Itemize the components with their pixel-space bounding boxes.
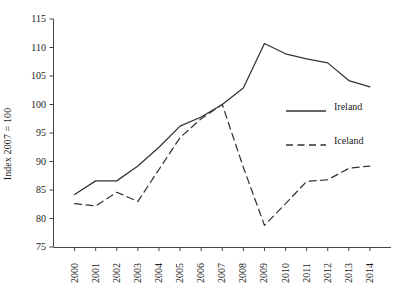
x-axis-tick-labels: 2000200120022003200420052006200720082009…: [0, 252, 417, 290]
x-tick-label: 2005: [175, 258, 185, 288]
x-tick-label: 2004: [154, 258, 164, 288]
x-tick-label: 2002: [112, 258, 122, 288]
x-tick-label: 2003: [133, 258, 143, 288]
x-tick-label: 2011: [302, 258, 312, 288]
legend-item-ireland: Ireland: [286, 100, 362, 114]
x-tick-label: 2006: [196, 258, 206, 288]
x-tick-label: 2014: [365, 258, 375, 288]
x-tick-label: 2008: [238, 258, 248, 288]
legend-item-iceland: Iceland: [286, 134, 363, 148]
legend-swatch-dashed-icon: [286, 136, 326, 146]
legend-swatch-solid-icon: [286, 102, 326, 112]
x-tick-label: 2012: [323, 258, 333, 288]
chart-legend: Ireland Iceland: [286, 100, 406, 156]
legend-label-ireland: Ireland: [334, 102, 362, 112]
x-tick-label: 2009: [259, 258, 269, 288]
y-axis-tick-marks: [50, 19, 54, 247]
x-tick-label: 2013: [344, 258, 354, 288]
x-tick-label: 2010: [281, 258, 291, 288]
line-chart: Index 2007 = 100 1151101051009590858075 …: [0, 0, 417, 290]
x-tick-label: 2000: [70, 258, 80, 288]
x-tick-label: 2001: [91, 258, 101, 288]
x-tick-label: 2007: [217, 258, 227, 288]
legend-label-iceland: Iceland: [334, 136, 363, 146]
